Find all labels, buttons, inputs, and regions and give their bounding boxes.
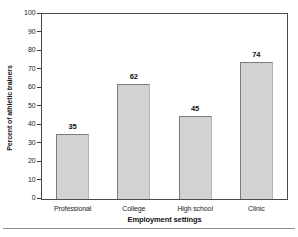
x-axis-ticks: ProfessionalCollegeHigh schoolClinic [42, 203, 287, 215]
y-tick: 80 [16, 45, 41, 55]
y-tick-label: 30 [28, 138, 36, 148]
bar-group[interactable]: 62 [117, 14, 150, 199]
y-tick: 20 [16, 156, 41, 166]
bar-value-label: 74 [240, 50, 273, 59]
y-tick: 60 [16, 82, 41, 92]
y-tick-label: 90 [28, 27, 36, 37]
y-tick: 30 [16, 138, 41, 148]
x-tick-label: Professional [40, 203, 106, 214]
y-tick: 0 [16, 193, 41, 203]
bars-layer: 35624574 [42, 14, 287, 199]
y-tick-label: 70 [28, 64, 36, 74]
y-tick-label: 60 [28, 82, 36, 92]
bar-group[interactable]: 45 [179, 14, 212, 199]
bar[interactable] [117, 84, 150, 199]
bottom-divider [3, 228, 295, 229]
y-tick-label: 40 [28, 119, 36, 129]
y-tick: 90 [16, 27, 41, 37]
y-tick: 100 [16, 8, 41, 18]
bar-value-label: 45 [179, 104, 212, 113]
bar-value-label: 35 [56, 122, 89, 131]
y-tick-label: 80 [28, 45, 36, 55]
bar[interactable] [240, 62, 273, 199]
y-axis-ticks: 0102030405060708090100 [16, 13, 41, 200]
y-tick: 50 [16, 101, 41, 111]
y-tick: 40 [16, 119, 41, 129]
bar[interactable] [179, 116, 212, 199]
y-tick-label: 10 [28, 175, 36, 185]
bar-chart-figure: Percent of athletic trainers 01020304050… [0, 0, 298, 237]
x-tick-label: Clinic [223, 203, 289, 214]
x-tick-label: High school [162, 203, 228, 214]
bar-value-label: 62 [117, 72, 150, 81]
x-tick-label: College [101, 203, 167, 214]
bar-group[interactable]: 35 [56, 14, 89, 199]
bar-group[interactable]: 74 [240, 14, 273, 199]
y-tick-label: 20 [28, 156, 36, 166]
bar[interactable] [56, 134, 89, 199]
y-tick-label: 0 [32, 193, 36, 203]
x-axis-title: Employment settings [41, 215, 288, 224]
y-tick: 70 [16, 64, 41, 74]
y-tick-label: 50 [28, 101, 36, 111]
y-tick-label: 100 [24, 8, 35, 18]
y-axis-title: Percent of athletic trainers [4, 13, 16, 203]
y-tick: 10 [16, 175, 41, 185]
